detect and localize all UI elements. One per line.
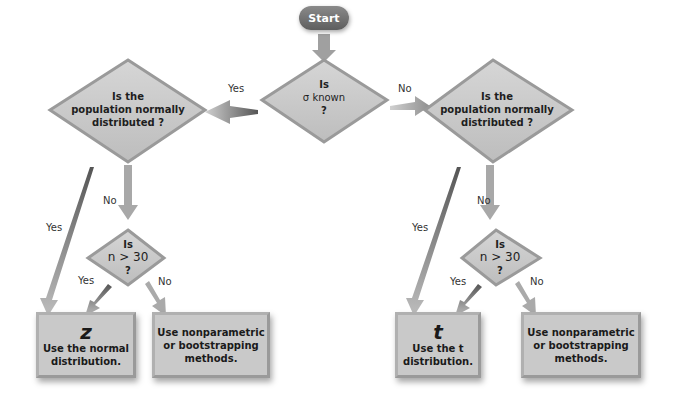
decision-text-line: n > 30 (98, 251, 158, 264)
result-t-distribution: t Use the t distribution. (395, 312, 481, 378)
edge-label-right-n-yes: Yes (450, 276, 466, 287)
decision-text-line: σ known (284, 91, 364, 104)
result-text-line: or bootstrapping (533, 339, 628, 352)
edge-label-yes: Yes (228, 83, 244, 94)
edge-label-left-n-yes: Yes (78, 275, 94, 286)
result-normal-distribution: z Use the normal distribution. (36, 312, 136, 378)
decision-text-line: ? (98, 264, 158, 277)
result-text-line: methods. (555, 352, 608, 365)
decision-text-line: ? (470, 264, 530, 277)
result-text-line: Use nonparametric (527, 326, 634, 339)
decision-text-line: population normally (68, 103, 188, 116)
decision-right-normal-text: Is the population normally distributed ? (437, 90, 557, 129)
decision-text-line: n > 30 (470, 251, 530, 264)
decision-text-line: Is (284, 78, 364, 91)
edge-label-left-n-no: No (158, 276, 172, 287)
edge-label-right-no: No (477, 195, 491, 206)
decision-right-n-text: Is n > 30 ? (470, 238, 530, 277)
result-text-line: distribution. (51, 355, 121, 368)
edge-label-right-n-no: No (530, 276, 544, 287)
result-text-line: Use nonparametric (157, 326, 264, 339)
decision-text-line: population normally (437, 103, 557, 116)
result-right-nonparametric: Use nonparametric or bootstrapping metho… (521, 312, 641, 378)
decision-text-line: distributed ? (68, 116, 188, 129)
decision-text-line: ? (284, 104, 364, 117)
arrow-sigma-no (390, 96, 430, 116)
edge-label-left-yes: Yes (46, 222, 62, 233)
arrow-left-normal-yes (40, 167, 94, 316)
result-text-line: methods. (185, 352, 238, 365)
symbol-z: z (80, 322, 92, 342)
arrow-right-normal-no (480, 165, 500, 220)
edge-label-no: No (398, 83, 412, 94)
arrow-start-to-sigma (312, 34, 336, 62)
result-text-line: distribution. (403, 355, 473, 368)
symbol-t: t (433, 322, 443, 342)
result-text-line: Use the normal (43, 342, 129, 355)
decision-text-line: Is the (437, 90, 557, 103)
decision-text-line: distributed ? (437, 116, 557, 129)
decision-left-n-text: Is n > 30 ? (98, 238, 158, 277)
edge-label-right-yes: Yes (412, 222, 428, 233)
start-node: Start (299, 6, 349, 30)
arrow-left-normal-no (118, 165, 138, 220)
decision-left-normal-text: Is the population normally distributed ? (68, 90, 188, 129)
arrow-sigma-yes (205, 100, 258, 124)
decision-text-line: Is the (68, 90, 188, 103)
result-text-line: or bootstrapping (163, 339, 258, 352)
decision-sigma-text: Is σ known ? (284, 78, 364, 117)
result-left-nonparametric: Use nonparametric or bootstrapping metho… (152, 312, 270, 378)
arrow-right-normal-yes (406, 167, 461, 316)
result-text-line: Use the t (412, 342, 463, 355)
edge-label-left-no: No (103, 195, 117, 206)
